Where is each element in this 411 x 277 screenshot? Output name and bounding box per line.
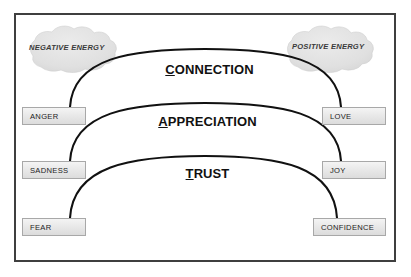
emotion-box-confidence: CONFIDENCE: [313, 218, 386, 236]
arc-label-trust-initial: T: [186, 166, 194, 181]
emotion-box-sadness: SADNESS: [22, 161, 86, 179]
emotion-box-love-label: LOVE: [330, 112, 351, 121]
arc-label-connection-initial: C: [165, 62, 175, 77]
emotion-box-fear-label: FEAR: [30, 223, 51, 232]
arc-label-trust-rest: RUST: [194, 166, 230, 181]
arc-label-appreciation-initial: A: [158, 114, 168, 129]
emotion-box-fear: FEAR: [22, 218, 86, 236]
emotion-box-love: LOVE: [322, 107, 386, 125]
diagram-canvas: NEGATIVE ENERGY POSITIVE ENERGY CONNECTI…: [0, 0, 411, 277]
cloud-label-negative-energy: NEGATIVE ENERGY: [29, 43, 104, 52]
emotion-box-joy-label: JOY: [330, 166, 346, 175]
emotion-box-anger: ANGER: [22, 107, 86, 125]
emotion-box-confidence-label: CONFIDENCE: [321, 223, 374, 232]
arc-label-connection: CONNECTION: [0, 62, 411, 77]
emotion-box-joy: JOY: [322, 161, 386, 179]
emotion-box-sadness-label: SADNESS: [30, 166, 68, 175]
arc-label-appreciation-rest: PPRECIATION: [168, 114, 257, 129]
cloud-label-positive-energy: POSITIVE ENERGY: [292, 42, 364, 51]
arc-appreciation: [70, 103, 341, 161]
arc-label-connection-rest: ONNECTION: [175, 62, 254, 77]
emotion-box-anger-label: ANGER: [30, 112, 59, 121]
